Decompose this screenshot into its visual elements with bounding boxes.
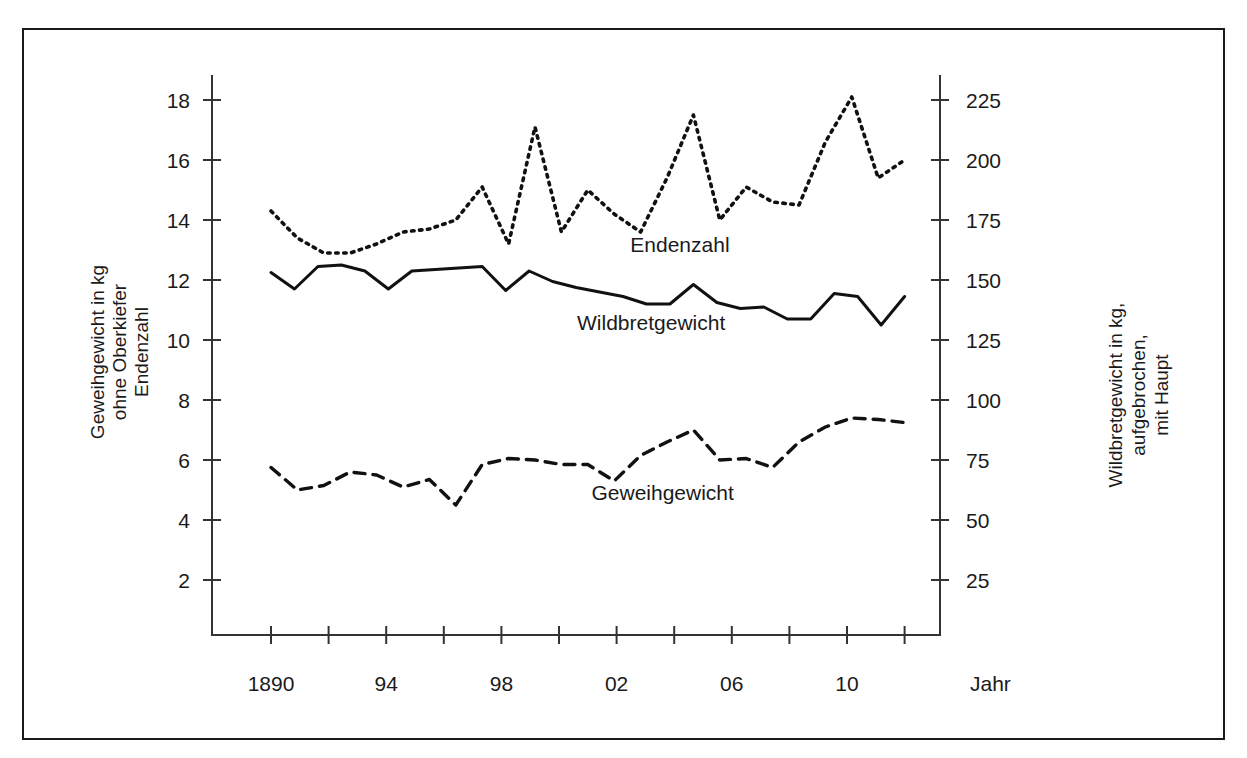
- right-axis-tick-label: 75: [966, 449, 989, 472]
- x-axis-tick-label: 06: [720, 672, 743, 695]
- series-line-endenzahl: [271, 97, 905, 253]
- left-axis-title-line: Endenzahl: [131, 307, 152, 397]
- right-axis-tick-label: 200: [966, 149, 1001, 172]
- x-axis-line: [212, 623, 940, 635]
- right-axis-title-line: mit Haupt: [1151, 354, 1172, 436]
- left-axis-tick-label: 14: [167, 209, 191, 232]
- right-axis-tick-label: 100: [966, 389, 1001, 412]
- left-axis-tick-label: 6: [178, 449, 190, 472]
- left-axis-tick-label: 12: [167, 269, 190, 292]
- chart-page: 2468101214161825507510012515017520022518…: [0, 0, 1247, 758]
- x-axis-title: Jahr: [970, 672, 1011, 695]
- x-axis-tick-label: 10: [835, 672, 858, 695]
- x-axis-tick-label: 94: [375, 672, 399, 695]
- series-label-endenzahl: Endenzahl: [630, 233, 729, 256]
- left-axis-title-line: Geweihgewicht in kg: [87, 265, 108, 439]
- right-axis-title-line: aufgebrochen,: [1128, 334, 1149, 456]
- series-label-wildbretgewicht: Wildbretgewicht: [577, 311, 725, 334]
- right-axis-tick-label: 150: [966, 269, 1001, 292]
- right-axis-tick-label: 225: [966, 89, 1001, 112]
- series-line-geweihgewicht: [271, 418, 905, 505]
- right-axis-tick-label: 25: [966, 569, 989, 592]
- x-axis-tick-label: 98: [490, 672, 513, 695]
- left-axis-tick-label: 2: [178, 569, 190, 592]
- left-axis-tick-label: 18: [167, 89, 190, 112]
- left-axis-tick-label: 16: [167, 149, 190, 172]
- x-axis-tick-label: 02: [605, 672, 628, 695]
- right-axis-tick-label: 175: [966, 209, 1001, 232]
- left-axis-tick-label: 10: [167, 329, 190, 352]
- left-axis-tick-label: 8: [178, 389, 190, 412]
- x-axis-tick-label: 1890: [248, 672, 295, 695]
- right-axis-tick-label: 50: [966, 509, 989, 532]
- left-axis-title-line: ohne Oberkiefer: [109, 283, 130, 420]
- series-label-geweihgewicht: Geweihgewicht: [591, 481, 734, 504]
- left-axis-tick-label: 4: [178, 509, 190, 532]
- chart-canvas: 2468101214161825507510012515017520022518…: [0, 0, 1247, 758]
- right-axis-tick-label: 125: [966, 329, 1001, 352]
- right-axis-title-line: Wildbretgewicht in kg,: [1105, 303, 1126, 488]
